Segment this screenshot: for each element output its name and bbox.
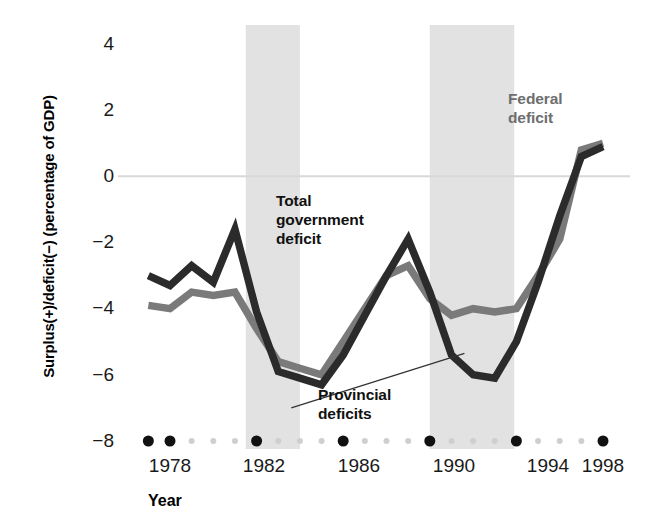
- x-tick-1978: 1978: [130, 455, 210, 477]
- x-tick-1998: 1998: [563, 455, 643, 477]
- x-tick-1990: 1990: [414, 455, 494, 477]
- x-axis-minor-tick: [384, 438, 390, 444]
- y-tick-minus2: −2: [79, 231, 114, 253]
- x-axis-minor-tick: [535, 438, 541, 444]
- annotation-total-line-2: government: [276, 211, 364, 230]
- x-axis-minor-tick: [319, 438, 325, 444]
- x-axis-major-tick: [598, 436, 609, 447]
- annotation-total-line-3: deficit: [276, 230, 364, 249]
- x-tick-1982: 1982: [224, 455, 304, 477]
- x-axis-major-tick: [251, 436, 262, 447]
- annotation-provincial-line-2: deficits: [318, 405, 391, 424]
- series-line-total-government-deficit: [148, 147, 603, 385]
- x-axis-major-tick: [165, 436, 176, 447]
- x-axis-title: Year: [148, 492, 182, 510]
- x-axis-minor-tick: [557, 438, 563, 444]
- x-axis-minor-tick: [297, 438, 303, 444]
- annotation-federal-deficit: Federal deficit: [508, 90, 562, 128]
- y-tick-minus8: −8: [79, 430, 114, 452]
- y-tick-0: 0: [86, 165, 114, 187]
- chart-figure: Surplus(+)/deficit(−) (percentage of GDP…: [0, 0, 646, 531]
- x-axis-major-tick: [511, 436, 522, 447]
- annotation-total-government-deficit: Total government deficit: [276, 192, 364, 249]
- x-axis-major-tick: [338, 436, 349, 447]
- x-axis-minor-tick: [362, 438, 368, 444]
- annotation-provincial-line-1: Provincial: [318, 386, 391, 405]
- x-axis-major-tick: [143, 436, 154, 447]
- x-axis-minor-tick: [275, 438, 281, 444]
- y-tick-2: 2: [86, 99, 114, 121]
- annotation-provincial-deficits: Provincial deficits: [318, 386, 391, 424]
- x-tick-1986: 1986: [319, 455, 399, 477]
- recession-band: [430, 25, 514, 449]
- x-axis-minor-tick: [210, 438, 216, 444]
- y-tick-minus4: −4: [79, 297, 114, 319]
- x-axis-minor-tick: [232, 438, 238, 444]
- y-tick-4: 4: [86, 33, 114, 55]
- x-axis-minor-tick: [448, 438, 454, 444]
- x-axis-minor-tick: [189, 438, 195, 444]
- series-line-federal-deficit: [148, 143, 603, 375]
- annotation-federal-line-1: Federal: [508, 90, 562, 109]
- x-axis-minor-tick: [492, 438, 498, 444]
- x-axis-minor-tick: [405, 438, 411, 444]
- annotation-total-line-1: Total: [276, 192, 364, 211]
- x-axis-major-tick: [424, 436, 435, 447]
- y-tick-minus6: −6: [79, 364, 114, 386]
- x-axis-minor-tick: [578, 438, 584, 444]
- annotation-federal-line-2: deficit: [508, 109, 562, 128]
- x-axis-minor-tick: [470, 438, 476, 444]
- y-axis-title: Surplus(+)/deficit(−) (percentage of GDP…: [40, 27, 57, 447]
